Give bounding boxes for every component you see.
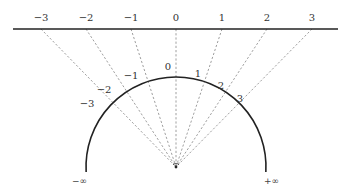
tick-label: −1 xyxy=(124,12,139,23)
number-line-tick-labels: −3−2−10123 xyxy=(34,12,316,23)
number-line-projection-diagram: −3−2−10123 −3−2−10123 −∞ +∞ xyxy=(0,0,348,191)
center-dot xyxy=(175,166,178,169)
projection-ray xyxy=(131,29,176,167)
arc-label: −1 xyxy=(124,70,139,81)
projection-ray xyxy=(176,29,312,167)
tick-label: −3 xyxy=(34,12,49,23)
projection-ray xyxy=(41,29,176,167)
positive-infinity-label: +∞ xyxy=(264,176,279,186)
arc-label: −2 xyxy=(97,84,112,95)
projection-ray xyxy=(176,29,267,167)
arc-label: 3 xyxy=(237,93,243,104)
projection-ray xyxy=(86,29,176,167)
tick-label: 2 xyxy=(264,12,270,23)
tick-label: 1 xyxy=(219,12,225,23)
arc-label: 2 xyxy=(218,80,224,91)
arc-label: 1 xyxy=(195,68,201,79)
negative-infinity-label: −∞ xyxy=(72,176,87,186)
tick-label: 0 xyxy=(173,12,179,23)
semicircle-arc xyxy=(86,77,266,172)
arc-label: 0 xyxy=(165,61,171,72)
tick-label: 3 xyxy=(309,12,315,23)
semicircle-labels: −3−2−10123 xyxy=(80,61,244,109)
tick-label: −2 xyxy=(79,12,94,23)
projection-ray xyxy=(176,29,222,167)
arc-label: −3 xyxy=(80,98,95,109)
